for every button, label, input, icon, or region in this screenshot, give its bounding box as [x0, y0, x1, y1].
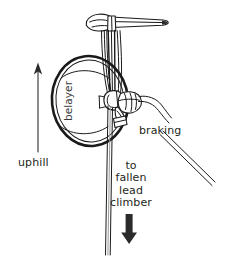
label-to-fallen-lead-climber: to fallen lead climber: [104, 160, 158, 210]
uphill-arrow: [34, 63, 42, 153]
ice-axe-head-icon: [86, 14, 168, 31]
label-line-fallen: fallen: [104, 172, 158, 184]
label-line-climber: climber: [104, 197, 158, 209]
label-uphill: uphill: [18, 156, 49, 169]
to-fallen-lead-climber-arrow: [121, 214, 137, 244]
diagram-canvas: [0, 0, 239, 262]
label-belayer: belayer: [62, 78, 74, 124]
boot-axe-belay-figure: uphill braking belayer to fallen lead cl…: [0, 0, 239, 262]
label-braking: braking: [139, 124, 181, 137]
